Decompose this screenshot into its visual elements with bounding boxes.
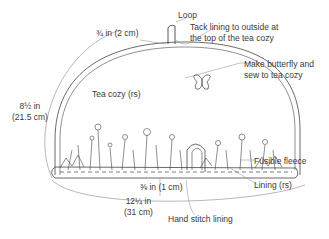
fusible-fleece-label: Fusible fleece	[254, 156, 306, 167]
tack-lining-label: Tack lining to outside at the top of the…	[190, 22, 278, 43]
height-label: 8½ in (21.5 cm)	[12, 101, 48, 122]
loop-label: Loop	[178, 10, 197, 21]
wildflowers	[60, 124, 282, 170]
width-label: 12¼ in (31 cm)	[124, 196, 153, 217]
loop-height-label: ¾ in (2 cm)	[96, 28, 139, 39]
seam-allowance-label: ⅜ in (1 cm)	[140, 182, 183, 193]
butterfly-icon	[194, 75, 211, 89]
lining-label: Lining (rs)	[254, 180, 292, 191]
height-dimension-arc	[45, 30, 120, 178]
loop	[168, 25, 175, 44]
hand-stitch-label: Hand stitch lining	[168, 214, 233, 225]
tea-cozy-label: Tea cozy (rs)	[92, 89, 141, 100]
tea-cozy-drawing	[0, 0, 329, 239]
lining-edge	[52, 167, 298, 178]
butterfly-label: Make butterfly and sew to tea cozy	[244, 59, 314, 80]
